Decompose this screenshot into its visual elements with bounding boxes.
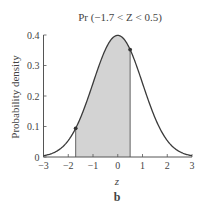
y-axis-label: Probability density [9, 55, 21, 139]
y-axis-tick-labels: 00.10.20.30.4 [27, 30, 40, 163]
x-tick-label: 3 [190, 160, 195, 171]
x-tick-label: 2 [165, 160, 170, 171]
x-axis-label: z [114, 175, 120, 187]
y-tick-label: 0.2 [27, 91, 40, 102]
x-tick-label: −2 [63, 160, 74, 171]
y-tick-label: 0.4 [27, 30, 40, 41]
marked-point [74, 126, 78, 130]
x-axis-tick-labels: −3−2−10123 [38, 160, 194, 171]
y-tick-label: 0.3 [27, 60, 40, 71]
shaded-probability-area [76, 35, 130, 157]
chart-title: Pr (−1.7 < Z < 0.5) [78, 11, 162, 24]
x-tick-label: 0 [115, 160, 120, 171]
normal-distribution-chart: Pr (−1.7 < Z < 0.5) −3−2−10123 00.10.20.… [0, 0, 206, 209]
x-tick-label: 1 [140, 160, 145, 171]
x-tick-label: −1 [88, 160, 99, 171]
marked-point [128, 48, 132, 52]
y-tick-label: 0.1 [27, 121, 40, 132]
shaded-area [76, 35, 130, 157]
y-tick-label: 0 [35, 152, 40, 163]
x-tick-label: −3 [38, 160, 49, 171]
panel-label: b [114, 190, 121, 204]
